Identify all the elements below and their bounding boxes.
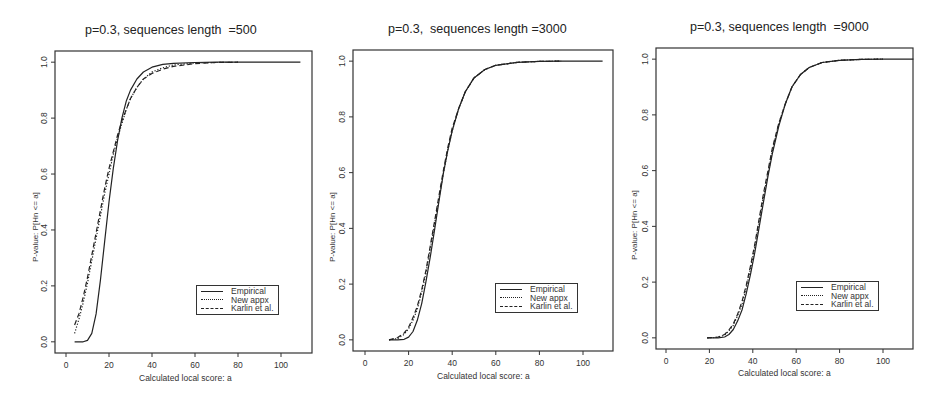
solid-line-icon: [801, 287, 823, 288]
x-axis-label: Calculated local score: a: [738, 368, 831, 378]
x-tick-label: 60: [791, 356, 801, 366]
x-tick-label: 80: [835, 356, 845, 366]
y-tick-label: 0.0: [640, 332, 650, 344]
y-tick-label: 1.0: [640, 53, 650, 65]
x-tick-label: 20: [705, 356, 715, 366]
y-tick-label: 0.6: [640, 164, 650, 176]
y-tick-label: 0.4: [640, 220, 650, 232]
y-tick-label: 0.8: [640, 109, 650, 121]
y-tick-label: 0.2: [640, 276, 650, 288]
y-axis-label: P-value: P[Hn <= a]: [630, 190, 639, 260]
x-tick-label: 40: [748, 356, 758, 366]
legend: Empirical New appx Karlin et al.: [796, 281, 879, 311]
dashed-line-icon: [801, 304, 823, 305]
plot-area: 0204060801000.00.20.40.60.81.0: [0, 0, 944, 402]
legend-item-karlin: Karlin et al.: [801, 300, 874, 309]
dotted-line-icon: [801, 295, 823, 296]
x-tick-label: 0: [664, 356, 669, 366]
chart-panel-9000: p=0.3, sequences length =9000 0204060801…: [0, 0, 944, 402]
x-tick-label: 100: [876, 356, 890, 366]
